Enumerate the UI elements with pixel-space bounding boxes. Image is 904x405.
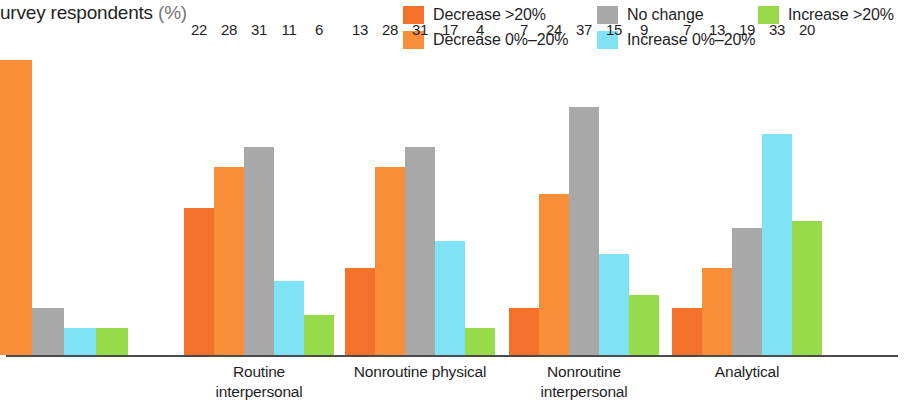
bar-value-label: 6 — [315, 21, 323, 38]
bar-increase-20[interactable]: 20 — [792, 40, 822, 355]
chart-title: urvey respondents (%) — [0, 2, 187, 24]
bar-no-change[interactable]: 7 — [32, 40, 64, 355]
bar-decrease-0-20[interactable]: 13 — [702, 40, 732, 355]
bar-decrease-20[interactable]: 22 — [184, 40, 214, 355]
bar-value-label: 28 — [382, 21, 398, 38]
bar-group-bars: 132831174 — [345, 40, 495, 355]
category-label-line: Nonroutine physical — [345, 362, 495, 382]
bar-value-label: 13 — [352, 21, 368, 38]
bar-decrease-20[interactable]: 13 — [345, 40, 375, 355]
bar-increase-0-20[interactable]: 17 — [435, 40, 465, 355]
bar-rect[interactable] — [762, 134, 792, 355]
bar-rect[interactable] — [599, 254, 629, 355]
bar-rect[interactable] — [96, 328, 128, 355]
bar-value-label: 33 — [769, 21, 785, 38]
bar-decrease-0-20[interactable]: 28 — [214, 40, 244, 355]
bar-rect[interactable] — [672, 308, 702, 355]
bar-rect[interactable] — [569, 107, 599, 355]
bar-group-bars: 41744 — [0, 40, 160, 355]
bar-no-change[interactable]: 19 — [732, 40, 762, 355]
bar-increase-20[interactable]: 4 — [465, 40, 495, 355]
bar-increase-0-20[interactable]: 11 — [274, 40, 304, 355]
x-axis-line — [6, 355, 898, 357]
bar-rect[interactable] — [465, 328, 495, 355]
bar-group-0: 41744Routine physical — [0, 40, 160, 355]
bar-value-label: 24 — [546, 21, 562, 38]
bar-rect[interactable] — [304, 315, 334, 355]
bar-value-label: 31 — [251, 21, 267, 38]
category-label-line: interpersonal — [184, 382, 334, 402]
chart-title-unit: (%) — [158, 2, 187, 23]
plot-area: 41744Routine physical222831116Routineint… — [0, 40, 904, 405]
bar-rect[interactable] — [509, 308, 539, 355]
bar-group-1: 222831116Routineinterpersonal — [184, 40, 334, 355]
bar-rect[interactable] — [732, 228, 762, 355]
bar-group-bars: 222831116 — [184, 40, 334, 355]
bar-decrease-0-20[interactable]: 28 — [375, 40, 405, 355]
bar-no-change[interactable]: 37 — [569, 40, 599, 355]
bar-rect[interactable] — [792, 221, 822, 355]
bar-value-label: 11 — [282, 21, 297, 38]
bar-value-label: 9 — [640, 21, 648, 38]
bar-rect[interactable] — [345, 268, 375, 355]
bar-decrease-0-20[interactable] — [0, 40, 32, 355]
bar-value-label: 20 — [799, 21, 815, 38]
bar-group-4: 713193320Analytical — [672, 40, 822, 355]
bar-increase-0-20[interactable]: 15 — [599, 40, 629, 355]
bar-no-change[interactable]: 31 — [405, 40, 435, 355]
bar-rect[interactable] — [629, 295, 659, 355]
bar-value-label: 7 — [520, 21, 528, 38]
bar-no-change[interactable]: 31 — [244, 40, 274, 355]
bar-value-label: 37 — [576, 21, 592, 38]
bar-rect[interactable] — [184, 208, 214, 355]
bar-rect[interactable] — [214, 167, 244, 355]
bar-value-label: 15 — [606, 21, 622, 38]
bar-decrease-20[interactable]: 7 — [509, 40, 539, 355]
bar-rect[interactable] — [32, 308, 64, 355]
chart-title-text: urvey respondents — [0, 2, 153, 23]
bar-rect[interactable] — [375, 167, 405, 355]
bar-value-label: 19 — [739, 21, 755, 38]
bar-increase-20[interactable]: 6 — [304, 40, 334, 355]
category-label-4: Analytical — [672, 362, 822, 382]
category-label-line: Routine — [184, 362, 334, 382]
bar-rect[interactable] — [539, 194, 569, 355]
bar-value-label: 22 — [191, 21, 207, 38]
bar-increase-0-20[interactable]: 4 — [64, 40, 96, 355]
bar-value-label: 17 — [442, 21, 458, 38]
bar-value-label: 4 — [476, 21, 484, 38]
legend-label-no_change: No change — [627, 6, 704, 24]
category-label-line: interpersonal — [509, 382, 659, 402]
bar-decrease-20[interactable]: 7 — [672, 40, 702, 355]
bar-increase-0-20[interactable]: 33 — [762, 40, 792, 355]
category-label-line: Nonroutine — [509, 362, 659, 382]
bar-value-label: 28 — [221, 21, 237, 38]
bar-rect[interactable] — [244, 147, 274, 355]
bar-rect[interactable] — [0, 60, 32, 355]
bar-rect[interactable] — [435, 241, 465, 355]
bar-group-bars: 713193320 — [672, 40, 822, 355]
bar-rect[interactable] — [274, 281, 304, 355]
category-label-1: Routineinterpersonal — [184, 362, 334, 402]
bar-group-2: 132831174Nonroutine physical — [345, 40, 495, 355]
bar-group-3: 72437159Nonroutineinterpersonal — [509, 40, 659, 355]
category-label-2: Nonroutine physical — [345, 362, 495, 382]
bar-value-label: 31 — [412, 21, 428, 38]
category-label-3: Nonroutineinterpersonal — [509, 362, 659, 402]
bar-rect[interactable] — [405, 147, 435, 355]
bar-group-bars: 72437159 — [509, 40, 659, 355]
bar-decrease-0-20[interactable]: 24 — [539, 40, 569, 355]
bar-rect[interactable] — [702, 268, 732, 355]
bar-increase-20[interactable]: 4 — [96, 40, 128, 355]
chart-figure: urvey respondents (%) Decrease >20%Decre… — [0, 0, 904, 405]
bar-rect[interactable] — [64, 328, 96, 355]
bar-value-label: 7 — [683, 21, 691, 38]
bar-value-label: 13 — [709, 21, 725, 38]
bar-increase-20[interactable]: 9 — [629, 40, 659, 355]
category-label-line: Analytical — [672, 362, 822, 382]
